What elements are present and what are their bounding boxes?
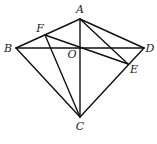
label-c: C <box>76 120 85 133</box>
label-b: B <box>3 42 12 55</box>
label-o: O <box>67 48 76 61</box>
label-e: E <box>129 63 138 76</box>
label-d: D <box>145 42 155 55</box>
label-f: F <box>35 22 44 35</box>
geometry-diagram: A B C D E F O <box>0 0 157 144</box>
label-a: A <box>75 3 84 16</box>
segment-fe <box>45 35 128 64</box>
segment-ad <box>80 19 144 48</box>
segment-ae <box>80 19 128 64</box>
